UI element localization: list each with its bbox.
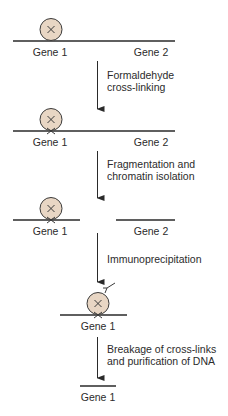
gene-label: Gene 2 — [134, 46, 168, 58]
gene-label: Gene 1 — [81, 320, 115, 332]
gene-label: Gene 1 — [33, 136, 67, 148]
gene-label: Gene 1 — [81, 391, 115, 403]
gene-label: Gene 2 — [134, 136, 168, 148]
step-label: Formaldehyde cross-linking — [107, 69, 174, 93]
antibody-icon — [103, 283, 115, 293]
stage-4 — [60, 283, 127, 318]
step-label-line: Formaldehyde — [107, 69, 174, 81]
step-label-line: Breakage of cross-links — [107, 343, 216, 355]
stage-3 — [13, 198, 175, 224]
gene-label: Gene 1 — [33, 225, 67, 237]
gene-label: Gene 2 — [134, 225, 168, 237]
step-label-line: chromatin isolation — [107, 170, 195, 182]
step-label: Fragmentation and chromatin isolation — [107, 158, 195, 182]
protein-icon — [40, 109, 62, 131]
step-label-line: Fragmentation and — [107, 158, 195, 170]
stage-1 — [13, 19, 175, 42]
protein-icon — [40, 19, 62, 41]
step-label-line: cross-linking — [107, 81, 174, 93]
protein-icon — [40, 198, 62, 220]
gene-label: Gene 1 — [33, 46, 67, 58]
protein-icon — [87, 293, 109, 315]
step-label: Breakage of cross-links and purification… — [107, 343, 216, 367]
stage-2 — [13, 109, 175, 135]
step-label: Immunoprecipitation — [107, 253, 202, 265]
step-label-line: and purification of DNA — [107, 355, 216, 367]
step-label-line: Immunoprecipitation — [107, 253, 202, 265]
